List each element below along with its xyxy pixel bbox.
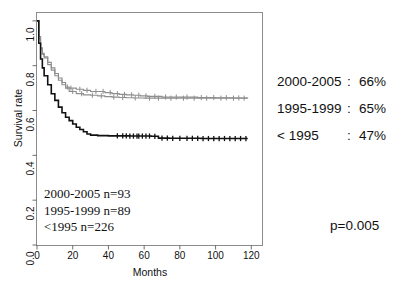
y-tick-label: 1.0 [25,27,36,53]
y-axis-label: Survival rate [12,78,24,158]
count-line-1995-1999: 1995-1999 n=89 [44,203,130,220]
x-tick-label: 80 [165,250,195,261]
legend-row-pre-1995: < 1995 : 47% [277,122,412,149]
legend: 2000-2005 : 66% 1995-1999 : 65% < 1995 :… [277,68,412,149]
legend-period-label: 2000-2005 [277,68,347,95]
legend-separator: : [347,68,359,95]
y-tick-label: 0.8 [25,72,36,98]
sample-size-annotation: 2000-2005 n=93 1995-1999 n=89 <1995 n=22… [44,186,130,236]
x-tick-label: 60 [129,250,159,261]
survival-curve-1995 [37,21,248,139]
y-tick-label: 0.4 [25,162,36,188]
y-tick-label: 0.6 [25,117,36,143]
legend-row-1995-1999: 1995-1999 : 65% [277,95,412,122]
x-tick-label: 120 [236,250,266,261]
legend-separator: : [347,122,359,149]
legend-period-label: 1995-1999 [277,95,347,122]
p-value-annotation: p=0.005 [330,218,379,233]
x-tick-label: 40 [93,250,123,261]
survival-curve-2000-2005 [37,21,248,98]
x-tick-label: 0 [22,250,52,261]
count-line-pre-1995: <1995 n=226 [44,219,130,236]
x-axis-label: Months [110,266,190,278]
x-tick-label: 20 [58,250,88,261]
x-tick-label: 100 [201,250,231,261]
legend-survival-value: 66% [359,68,386,95]
legend-separator: : [347,95,359,122]
legend-survival-value: 65% [359,95,386,122]
legend-survival-value: 47% [359,122,386,149]
survival-curves [37,21,248,141]
legend-row-2000-2005: 2000-2005 : 66% [277,68,412,95]
survival-chart-figure: 0.00.20.40.60.81.0 Survival rate 0204060… [0,0,414,285]
y-tick-label: 0.2 [25,207,36,233]
legend-period-label: < 1995 [277,122,347,149]
count-line-2000-2005: 2000-2005 n=93 [44,186,130,203]
